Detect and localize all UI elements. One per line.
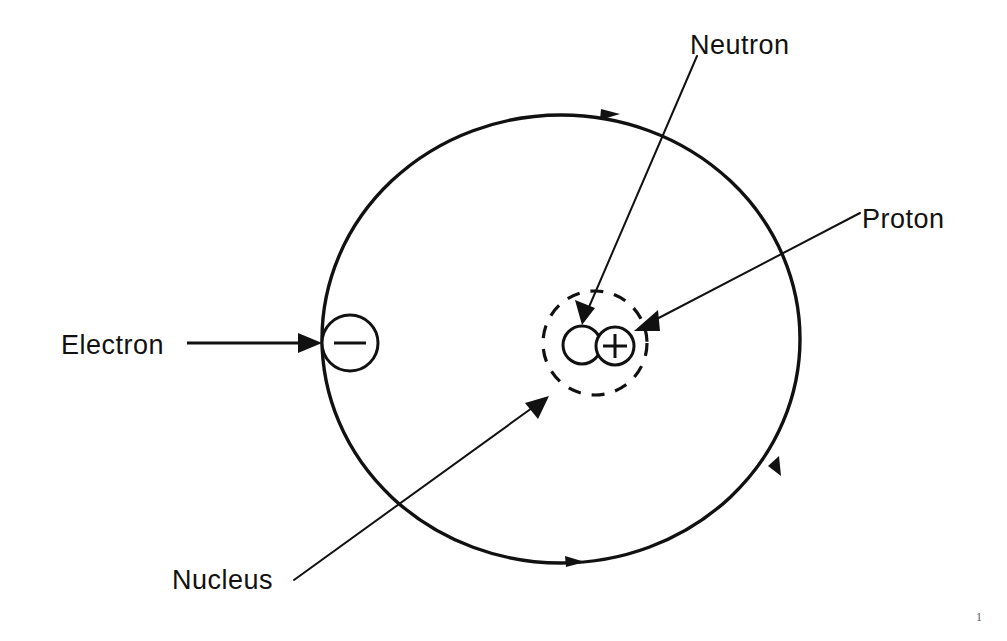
- electron-particle: [322, 315, 378, 371]
- electron-leader-arrowhead: [298, 333, 322, 353]
- diagram-page: Electron Neutron Proton Nucleus 1: [0, 0, 1007, 641]
- atom-diagram: Electron Neutron Proton Nucleus 1: [0, 0, 1007, 641]
- neutron-leader-arrowhead: [575, 300, 595, 325]
- proton-leader: [634, 213, 860, 331]
- page-number: 1: [976, 610, 982, 624]
- nucleus-leader-arrowhead: [525, 396, 549, 419]
- neutron-leader-line: [589, 56, 697, 307]
- orbit-direction-marker-bottom: [565, 556, 585, 567]
- proton-particle: [596, 327, 634, 365]
- electron-label: Electron: [61, 330, 164, 360]
- electron-orbit-path: [322, 115, 800, 563]
- nucleus-label: Nucleus: [172, 565, 273, 595]
- proton-label: Proton: [862, 204, 945, 234]
- nucleus-leader: [294, 396, 549, 580]
- orbit-direction-marker-right: [768, 456, 781, 476]
- proton-leader-line: [651, 213, 860, 322]
- neutron-label: Neutron: [690, 30, 790, 60]
- electron-leader: [187, 333, 322, 353]
- neutron-leader: [575, 56, 697, 325]
